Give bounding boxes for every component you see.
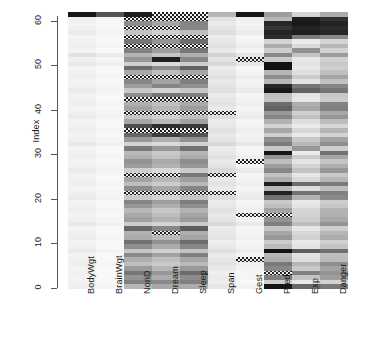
heatmap-cell — [124, 208, 152, 213]
heatmap-cell — [180, 146, 208, 151]
y-axis-tick-label: 40 — [33, 98, 43, 120]
heatmap-cell — [208, 119, 236, 124]
heatmap-cell — [292, 239, 320, 244]
heatmap-cell — [292, 270, 320, 275]
heatmap-cell — [264, 43, 292, 48]
x-axis-label-danger: Danger — [338, 263, 348, 294]
heatmap-cell — [292, 252, 320, 257]
heatmap-cell-na — [124, 190, 152, 195]
heatmap-cell — [320, 168, 348, 173]
heatmap-cell — [292, 199, 320, 204]
heatmap-cell — [152, 141, 180, 146]
heatmap-cell — [320, 159, 348, 164]
heatmap-cell-na — [124, 110, 152, 115]
heatmap-cell — [264, 195, 292, 200]
heatmap-cell — [292, 146, 320, 151]
heatmap-cell — [96, 128, 124, 133]
heatmap-cell — [68, 16, 96, 21]
heatmap-cell — [152, 159, 180, 164]
heatmap-cell — [152, 154, 180, 159]
heatmap-cell — [320, 203, 348, 208]
heatmap-cell — [292, 163, 320, 168]
heatmap-cell — [264, 16, 292, 21]
heatmap-cell — [180, 235, 208, 240]
heatmap-cell — [208, 212, 236, 217]
heatmap-cell — [264, 39, 292, 44]
heatmap-cell — [292, 70, 320, 75]
heatmap-cell — [180, 168, 208, 173]
y-axis-tick — [51, 243, 57, 244]
heatmap-cell-na — [152, 12, 180, 17]
heatmap-cell — [292, 110, 320, 115]
heatmap-cell — [264, 172, 292, 177]
heatmap-cell-na — [124, 74, 152, 79]
heatmap-cell — [180, 83, 208, 88]
heatmap-cell — [264, 34, 292, 39]
heatmap-cell — [264, 248, 292, 253]
heatmap-cell — [236, 154, 264, 159]
heatmap-cell — [96, 226, 124, 231]
heatmap-cell-na — [124, 172, 152, 177]
heatmap-cell — [292, 150, 320, 155]
heatmap-cell — [236, 79, 264, 84]
heatmap-cell-na — [124, 34, 152, 39]
heatmap-cell — [96, 92, 124, 97]
heatmap-cell — [180, 61, 208, 66]
heatmap-cell — [152, 114, 180, 119]
heatmap-cell — [208, 230, 236, 235]
heatmap-cell — [96, 25, 124, 30]
heatmap-cell-na — [152, 97, 180, 102]
heatmap-cell — [236, 30, 264, 35]
heatmap-cell — [180, 114, 208, 119]
heatmap-cell — [180, 248, 208, 253]
heatmap-cell — [208, 257, 236, 262]
heatmap-cell — [152, 163, 180, 168]
heatmap-cell — [96, 217, 124, 222]
heatmap-cell — [236, 163, 264, 168]
heatmap-cell — [208, 203, 236, 208]
heatmap-cell — [124, 154, 152, 159]
heatmap-cell — [180, 123, 208, 128]
heatmap-cell — [180, 132, 208, 137]
heatmap-cell — [292, 105, 320, 110]
y-axis-tick — [51, 154, 57, 155]
heatmap-cell — [208, 92, 236, 97]
heatmap-cell — [208, 208, 236, 213]
y-axis-tick-label: 0 — [33, 276, 43, 298]
heatmap-cell — [236, 83, 264, 88]
heatmap-cell — [208, 65, 236, 70]
heatmap-cell — [124, 186, 152, 191]
heatmap-cell — [236, 123, 264, 128]
heatmap-cell — [208, 105, 236, 110]
heatmap-cell — [208, 88, 236, 93]
heatmap-cell — [96, 137, 124, 142]
heatmap-cell — [68, 83, 96, 88]
heatmap-cell — [68, 154, 96, 159]
heatmap-cell — [292, 217, 320, 222]
heatmap-cell — [264, 110, 292, 115]
heatmap-cell — [208, 123, 236, 128]
heatmap-cell — [320, 88, 348, 93]
heatmap-cell — [264, 186, 292, 191]
heatmap-cell — [292, 88, 320, 93]
heatmap-cell-na — [152, 43, 180, 48]
heatmap-cell-na — [180, 12, 208, 17]
heatmap-cell — [152, 226, 180, 231]
heatmap-cell — [68, 57, 96, 62]
heatmap-cell — [264, 230, 292, 235]
heatmap-cell — [292, 52, 320, 57]
heatmap-cell — [96, 150, 124, 155]
heatmap-cell-na — [180, 110, 208, 115]
heatmap-cell — [236, 199, 264, 204]
heatmap-cell — [124, 105, 152, 110]
heatmap-cell — [264, 74, 292, 79]
heatmap-cell-na — [152, 230, 180, 235]
heatmap-cell — [180, 70, 208, 75]
heatmap-cell — [124, 203, 152, 208]
heatmap-cell — [264, 97, 292, 102]
heatmap-cell — [124, 163, 152, 168]
heatmap-cell — [124, 217, 152, 222]
heatmap-cell — [180, 252, 208, 257]
heatmap-cell — [208, 266, 236, 271]
heatmap-cell — [292, 97, 320, 102]
